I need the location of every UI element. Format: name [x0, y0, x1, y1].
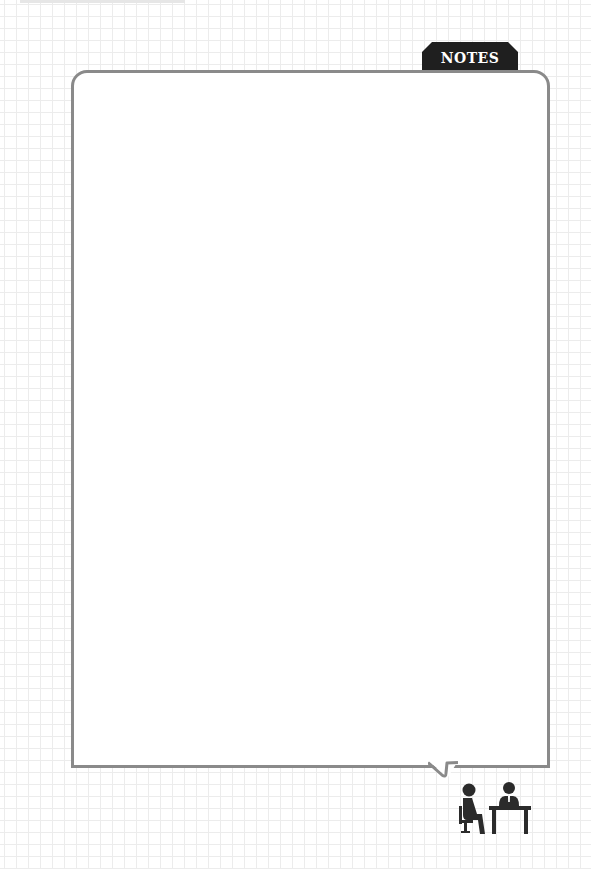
speech-bubble-tail — [428, 761, 458, 781]
notes-tab: NOTES — [422, 42, 518, 72]
notes-card — [71, 70, 550, 768]
notes-text-area[interactable] — [74, 73, 547, 765]
top-edge-strip — [20, 0, 185, 3]
notes-tab-label: NOTES — [441, 48, 500, 66]
interview-meeting-icon — [458, 782, 534, 836]
